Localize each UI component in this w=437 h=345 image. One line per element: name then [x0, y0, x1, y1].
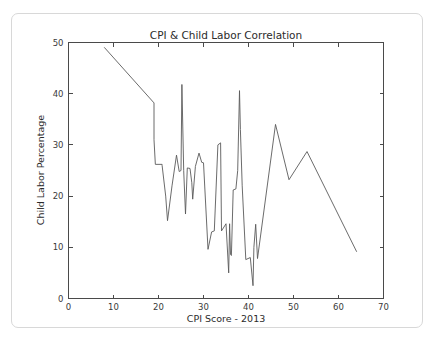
- x-tick-label-70: 70: [378, 302, 389, 312]
- x-axis-title: CPI Score - 2013: [187, 313, 265, 324]
- y-tick-label-20: 20: [53, 191, 64, 201]
- chart-page: 010203040506070 01020304050 CPI & Child …: [0, 0, 437, 345]
- y-tick-label-40: 40: [53, 89, 64, 99]
- x-tick-label-0: 0: [66, 302, 71, 312]
- x-tick-label-30: 30: [198, 302, 209, 312]
- plot-frame: [69, 43, 384, 299]
- y-tick-label-10: 10: [53, 242, 64, 252]
- series-line-child-labor: [105, 48, 357, 286]
- x-tick-label-60: 60: [333, 302, 344, 312]
- cpi-child-labor-line-chart: 010203040506070 01020304050 CPI & Child …: [0, 0, 437, 345]
- y-tick-label-0: 0: [58, 294, 63, 304]
- x-tick-labels: 010203040506070: [66, 302, 389, 312]
- x-tick-label-40: 40: [243, 302, 254, 312]
- y-tick-label-30: 30: [53, 140, 64, 150]
- x-tick-marks: [69, 43, 384, 299]
- y-axis-title: Child Labor Percentage: [35, 115, 46, 225]
- x-tick-label-50: 50: [288, 302, 299, 312]
- y-tick-label-50: 50: [53, 38, 64, 48]
- chart-title: CPI & Child Labor Correlation: [150, 29, 302, 41]
- y-tick-marks: [69, 43, 384, 299]
- x-tick-label-20: 20: [153, 302, 164, 312]
- x-tick-label-10: 10: [108, 302, 119, 312]
- y-tick-labels: 01020304050: [53, 38, 64, 304]
